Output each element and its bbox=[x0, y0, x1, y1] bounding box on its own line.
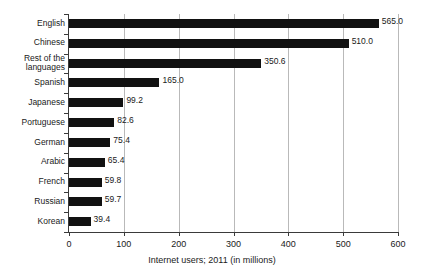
x-tick-400 bbox=[288, 232, 289, 236]
x-tick-500 bbox=[343, 232, 344, 236]
bar-row: 565.0 bbox=[0, 14, 424, 34]
bar-row: 165.0 bbox=[0, 73, 424, 93]
x-tick-300 bbox=[234, 232, 235, 236]
bar-value-label-2: 350.6 bbox=[264, 56, 285, 67]
x-tick-label-600: 600 bbox=[378, 239, 418, 250]
bar-6 bbox=[69, 138, 110, 147]
bar-row: 59.8 bbox=[0, 173, 424, 193]
x-tick-600 bbox=[398, 232, 399, 236]
x-tick-label-400: 400 bbox=[268, 239, 308, 250]
bar-chart: 0100200300400500600 EnglishChineseRest o… bbox=[0, 0, 424, 277]
bar-value-label-9: 59.7 bbox=[105, 194, 122, 205]
bar-value-label-5: 82.6 bbox=[117, 115, 134, 126]
x-tick-200 bbox=[179, 232, 180, 236]
bar-1 bbox=[69, 39, 349, 48]
bar-value-label-8: 59.8 bbox=[105, 175, 122, 186]
bar-row: 65.4 bbox=[0, 153, 424, 173]
x-tick-100 bbox=[124, 232, 125, 236]
x-tick-0 bbox=[69, 232, 70, 236]
x-tick-label-100: 100 bbox=[104, 239, 144, 250]
x-tick-label-500: 500 bbox=[323, 239, 363, 250]
bar-value-label-1: 510.0 bbox=[352, 36, 373, 47]
x-tick-label-300: 300 bbox=[214, 239, 254, 250]
bar-0 bbox=[69, 19, 379, 28]
bar-row: 350.6 bbox=[0, 54, 424, 74]
bar-2 bbox=[69, 59, 261, 68]
bar-row: 82.6 bbox=[0, 113, 424, 133]
bar-8 bbox=[69, 178, 102, 187]
x-axis-title: Internet users; 2011 (in millions) bbox=[0, 255, 424, 265]
bar-row: 75.4 bbox=[0, 133, 424, 153]
bar-5 bbox=[69, 118, 114, 127]
bar-value-label-7: 65.4 bbox=[108, 155, 125, 166]
bar-value-label-4: 99.2 bbox=[126, 95, 143, 106]
x-tick-label-200: 200 bbox=[159, 239, 199, 250]
bar-3 bbox=[69, 78, 159, 87]
bar-row: 99.2 bbox=[0, 93, 424, 113]
bar-4 bbox=[69, 98, 123, 107]
bar-9 bbox=[69, 197, 102, 206]
bar-10 bbox=[69, 217, 91, 226]
x-tick-label-0: 0 bbox=[49, 239, 89, 250]
bar-row: 39.4 bbox=[0, 212, 424, 232]
bar-value-label-3: 165.0 bbox=[162, 75, 183, 86]
bar-7 bbox=[69, 158, 105, 167]
bar-row: 59.7 bbox=[0, 192, 424, 212]
bar-value-label-0: 565.0 bbox=[382, 16, 403, 27]
bar-row: 510.0 bbox=[0, 34, 424, 54]
bar-value-label-10: 39.4 bbox=[94, 214, 111, 225]
bar-value-label-6: 75.4 bbox=[113, 135, 130, 146]
